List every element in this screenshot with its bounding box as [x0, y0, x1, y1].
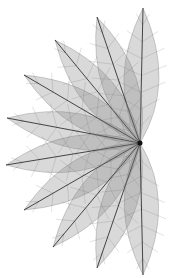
leaf-fan-artwork: [0, 0, 174, 278]
leaf-fan-image: Fan of skeletal leaves radiating from a …: [0, 0, 174, 278]
leaf-stem-pivot: [138, 141, 143, 146]
